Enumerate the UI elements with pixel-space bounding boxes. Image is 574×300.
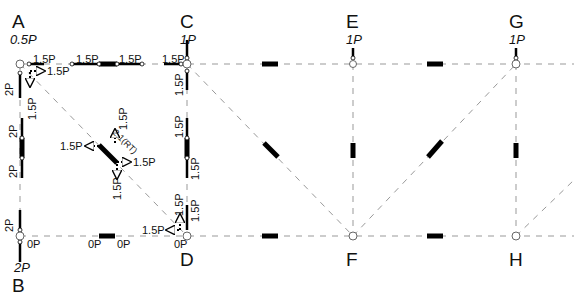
force-diag-left: 1.5P xyxy=(60,141,83,152)
node-label-H: H xyxy=(509,250,523,269)
force-AB-top: 2P xyxy=(8,125,19,138)
bar-CF xyxy=(264,143,278,157)
force-D-dashed-horizontal: 1.5P xyxy=(142,225,165,236)
force-AC-right: 1.5P xyxy=(119,54,142,65)
node-load-G: 1P xyxy=(509,33,525,46)
force-D-vertical: 1.5P xyxy=(190,199,201,222)
member-H-diag xyxy=(516,180,574,236)
bar-AD xyxy=(99,145,117,163)
force-CD-top: 1.5P xyxy=(174,115,185,138)
node-label-F: F xyxy=(346,250,358,269)
force-diag-top: 1.5P xyxy=(118,107,129,130)
force-D-horizontal: 0P xyxy=(174,239,187,250)
force-A-top: 1.5P xyxy=(33,54,56,65)
node-label-D: D xyxy=(180,250,194,269)
force-BD-left: 0P xyxy=(88,239,101,250)
force-BD-right: 0P xyxy=(117,239,130,250)
node-G xyxy=(512,60,520,68)
truss-diagram xyxy=(0,0,574,300)
node-label-G: G xyxy=(509,12,524,31)
bar-FG xyxy=(428,141,442,157)
force-CD-bottom: 1.5P xyxy=(190,157,201,180)
node-F xyxy=(349,232,357,240)
node-load-B: 2P xyxy=(14,261,30,274)
node-load-C: 1P xyxy=(180,33,196,46)
node-A xyxy=(16,60,24,68)
force-A-vertical: 2P xyxy=(4,83,15,96)
node-H xyxy=(512,232,520,240)
force-AC-left: 1.5P xyxy=(76,54,99,65)
force-diag-bottom: 1.5P xyxy=(112,177,123,200)
force-AC-at-C: 1.5P xyxy=(162,54,185,65)
node-label-C: C xyxy=(180,12,194,31)
force-B-horizontal: 0P xyxy=(27,239,40,250)
node-E xyxy=(350,61,357,68)
force-AB-bottom: 2P xyxy=(8,165,19,178)
node-B xyxy=(16,232,24,240)
node-label-E: E xyxy=(346,12,359,31)
node-label-B: B xyxy=(12,276,25,295)
node-load-E: 1P xyxy=(346,33,362,46)
force-ends xyxy=(20,40,516,262)
force-A-dashed-vertical: 1.5P xyxy=(27,97,38,120)
force-B-vertical: 2P xyxy=(4,219,15,232)
force-A-dashed: 1.5P xyxy=(47,66,70,77)
force-C-vertical: 1.5P xyxy=(174,73,185,96)
node-load-A: 0.5P xyxy=(10,33,37,46)
force-diag-right: 1.5P xyxy=(133,157,156,168)
node-label-A: A xyxy=(12,12,25,31)
force-D-dashed-vertical: 1.5P xyxy=(174,193,185,216)
force-bars xyxy=(22,64,516,236)
